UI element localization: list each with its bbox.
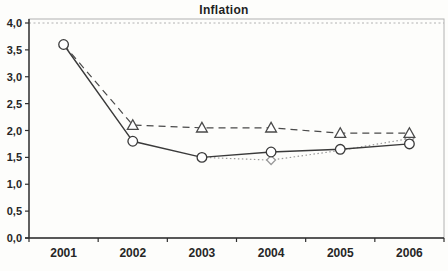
circle-marker [59, 40, 69, 50]
y-tick-label: 4,0 [7, 17, 22, 29]
y-tick-label: 0,5 [7, 205, 22, 217]
inflation-chart: Inflation 0,00,51,01,52,02,53,03,54,0200… [0, 0, 448, 271]
series-line-solid [64, 45, 410, 158]
circle-marker [128, 136, 138, 146]
x-tick-label: 2005 [327, 246, 354, 260]
x-tick-label: 2006 [396, 246, 423, 260]
chart-canvas: 0,00,51,01,52,02,53,03,54,02001200220032… [0, 0, 448, 271]
triangle-marker [404, 128, 415, 138]
circle-marker [266, 147, 276, 157]
series-dotted-diamond [202, 134, 414, 164]
y-tick-label: 3,5 [7, 44, 22, 56]
series-dashed-triangle [64, 45, 415, 138]
circle-marker [197, 153, 207, 163]
y-tick-label: 3,0 [7, 71, 22, 83]
x-tick-label: 2002 [119, 246, 146, 260]
x-tick-label: 2004 [258, 246, 285, 260]
circle-marker [405, 139, 415, 149]
y-tick-label: 2,5 [7, 98, 22, 110]
circle-marker [335, 145, 345, 155]
y-tick-label: 2,0 [7, 125, 22, 137]
series-line-dashed [64, 45, 410, 134]
triangle-marker [335, 128, 346, 138]
plot-frame [29, 19, 444, 238]
x-tick-label: 2003 [189, 246, 216, 260]
y-tick-label: 1,0 [7, 178, 22, 190]
y-tick-label: 0,0 [7, 232, 22, 244]
y-tick-label: 1,5 [7, 151, 22, 163]
x-tick-label: 2001 [50, 246, 77, 260]
series-line-dotted [202, 139, 410, 161]
